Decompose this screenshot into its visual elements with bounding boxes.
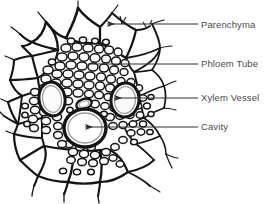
label-xylem-vessel: Xylem Vessel (201, 92, 259, 103)
cavity (64, 109, 106, 147)
label-phloem-tube: Phloem Tube (201, 58, 258, 69)
label-cavity: Cavity (201, 121, 228, 132)
label-parenchyma: Parenchyma (201, 19, 255, 30)
diagram-canvas: Parenchyma Phloem Tube Xylem Vessel Cavi… (0, 0, 278, 204)
